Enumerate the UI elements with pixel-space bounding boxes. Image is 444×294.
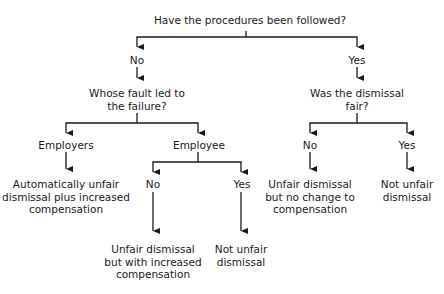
employee-no-outcome-line2: but with increased	[104, 256, 201, 269]
fault-question-line1: Whose fault led to	[89, 87, 185, 100]
fair-yes-outcome-line2: dismissal	[381, 191, 433, 204]
fair-no-outcome-line2: but no change to	[265, 191, 355, 204]
employee-no-label: No	[146, 178, 160, 191]
fair-yes-label: Yes	[399, 139, 416, 152]
root-question: Have the procedures been followed?	[154, 14, 346, 27]
employee-no-outcome-line3: compensation	[104, 268, 201, 281]
fair-no-outcome-line3: compensation	[265, 203, 355, 216]
employers-outcome-line1: Automatically unfair	[2, 178, 130, 191]
root-no-label: No	[130, 54, 144, 67]
employers-outcome-line3: compensation	[2, 203, 130, 216]
fair-yes-outcome-line1: Not unfair	[381, 178, 433, 191]
fair-no-outcome-line1: Unfair dismissal	[265, 178, 355, 191]
employers-outcome-line2: dismissal plus increased	[2, 191, 130, 204]
employers-label: Employers	[38, 139, 93, 152]
fair-yes-outcome: Not unfair dismissal	[381, 178, 433, 203]
employee-yes-outcome: Not unfair dismissal	[215, 243, 267, 268]
root-yes-label: Yes	[349, 54, 366, 67]
employee-no-outcome-line1: Unfair dismissal	[104, 243, 201, 256]
fault-question: Whose fault led to the failure?	[89, 87, 185, 112]
fair-question-line2: fair?	[310, 100, 404, 113]
fair-no-label: No	[303, 139, 317, 152]
fault-question-line2: the failure?	[89, 100, 185, 113]
employee-no-outcome: Unfair dismissal but with increased comp…	[104, 243, 201, 281]
fair-question-line1: Was the dismissal	[310, 87, 404, 100]
employee-yes-outcome-line1: Not unfair	[215, 243, 267, 256]
employee-yes-outcome-line2: dismissal	[215, 256, 267, 269]
employers-outcome: Automatically unfair dismissal plus incr…	[2, 178, 130, 216]
employee-label: Employee	[173, 139, 225, 152]
fair-no-outcome: Unfair dismissal but no change to compen…	[265, 178, 355, 216]
fair-question: Was the dismissal fair?	[310, 87, 404, 112]
employee-yes-label: Yes	[234, 178, 251, 191]
